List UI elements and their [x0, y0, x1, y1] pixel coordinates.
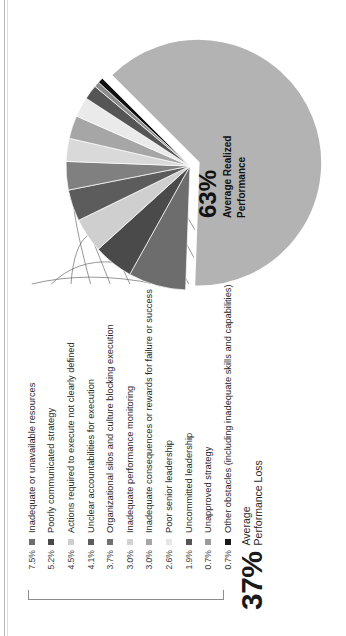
leader-line	[51, 262, 113, 284]
realized-performance-caption-line1: Average Realized	[222, 136, 234, 218]
legend-item-label: Uncommitted leadership	[184, 433, 194, 533]
legend-item-percent: 4.1%	[86, 545, 96, 584]
rotated-page-canvas: 37% Average Performance Loss 7.5%Inadequ…	[0, 0, 346, 636]
legend-swatch-icon	[146, 539, 152, 545]
leader-line	[71, 235, 88, 284]
legend-item-label: Actions required to execute not clearly …	[66, 342, 76, 533]
pie-chart: 63% Average Realized Performance	[0, 0, 346, 336]
legend-item-label: Poorly communicated strategy	[46, 408, 56, 533]
legend-item-label: Inadequate or unavailable resources	[27, 383, 37, 533]
legend-swatch-icon	[166, 539, 172, 545]
legend-item-label: Inadequate performance monitoring	[125, 386, 135, 533]
legend-swatch-icon	[68, 539, 74, 545]
legend-bracket	[28, 590, 224, 600]
legend-swatch-icon	[29, 539, 35, 545]
legend-item-percent: 1.9%	[184, 545, 194, 584]
pie-main-slice-label: 63% Average Realized Performance	[196, 136, 247, 218]
legend-item-percent: 0.7%	[203, 545, 213, 584]
performance-loss-caption-line2: Performance Loss	[252, 460, 264, 545]
legend-item-label: Organizational silos and culture blockin…	[105, 324, 115, 533]
legend-item-percent: 3.7%	[105, 545, 115, 584]
realized-performance-caption-line2: Performance	[236, 136, 248, 218]
legend-swatch-icon	[88, 539, 94, 545]
legend-swatch-icon	[107, 539, 113, 545]
performance-loss-caption: Average Performance Loss	[240, 460, 267, 545]
legend-swatch-icon	[127, 539, 133, 545]
pie-svg	[0, 0, 346, 336]
legend-item-percent: 7.5%	[27, 545, 37, 584]
legend-item-percent: 3.0%	[144, 545, 154, 584]
performance-loss-caption-line1: Average	[240, 460, 252, 545]
legend-swatch-icon	[48, 539, 54, 545]
realized-performance-value: 63%	[196, 136, 220, 218]
headline-block: 37% Average Performance Loss	[238, 460, 267, 610]
performance-loss-value: 37%	[238, 551, 267, 610]
legend-swatch-icon	[186, 539, 192, 545]
legend-swatch-icon	[225, 539, 231, 545]
legend-item-percent: 5.2%	[46, 545, 56, 584]
legend-item-label: Poor senior leadership	[164, 440, 174, 533]
legend-swatch-icon	[205, 539, 211, 545]
legend-item-percent: 4.5%	[66, 545, 76, 584]
legend-item-label: Unclear accountabilities for execution	[86, 379, 96, 533]
legend-item-percent: 3.0%	[125, 545, 135, 584]
legend-item-percent: 0.7%	[223, 545, 233, 584]
legend-item-percent: 2.6%	[164, 545, 174, 584]
legend-item-label: Unapproved strategy	[203, 447, 213, 533]
